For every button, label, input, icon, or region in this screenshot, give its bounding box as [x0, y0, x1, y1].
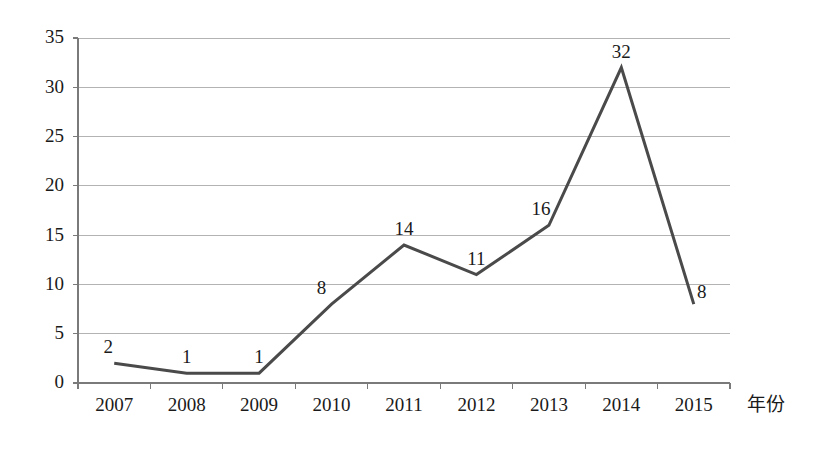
data-point-label: 16: [531, 198, 550, 219]
x-axis-tick-labels: 200720082009201020112012201320142015: [95, 394, 713, 415]
data-point-label: 8: [697, 281, 707, 302]
x-tick-label: 2009: [240, 394, 278, 415]
y-axis-tick-labels: 05101520253035: [45, 26, 64, 392]
x-tick-label: 2014: [602, 394, 641, 415]
line-chart: 05101520253035 2007200820092010201120122…: [0, 0, 831, 450]
x-tick-label: 2010: [313, 394, 351, 415]
x-tick-label: 2007: [95, 394, 133, 415]
x-axis-title: 年份: [747, 394, 785, 415]
y-tick-label: 0: [55, 371, 65, 392]
chart-canvas: 05101520253035 2007200820092010201120122…: [0, 0, 831, 450]
data-point-labels: 2118141116328: [103, 41, 706, 368]
y-tick-label: 15: [45, 224, 64, 245]
data-point-label: 8: [317, 277, 327, 298]
data-point-label: 2: [103, 336, 113, 357]
y-tick-label: 25: [45, 125, 64, 146]
x-tick-label: 2008: [168, 394, 206, 415]
data-point-label: 32: [612, 41, 631, 62]
data-point-label: 14: [395, 218, 415, 239]
x-tick-marks: [78, 383, 730, 389]
y-tick-label: 10: [45, 273, 64, 294]
gridlines: [78, 38, 730, 334]
y-tick-label: 35: [45, 26, 64, 47]
data-point-label: 1: [182, 346, 192, 367]
y-tick-label: 5: [55, 322, 65, 343]
x-tick-label: 2012: [457, 394, 495, 415]
x-tick-label: 2013: [530, 394, 568, 415]
x-tick-label: 2011: [385, 394, 422, 415]
data-point-label: 11: [467, 248, 485, 269]
y-tick-label: 20: [45, 174, 64, 195]
data-point-label: 1: [254, 346, 264, 367]
y-tick-label: 30: [45, 76, 64, 97]
y-tick-marks: [73, 38, 78, 383]
x-tick-label: 2015: [675, 394, 713, 415]
